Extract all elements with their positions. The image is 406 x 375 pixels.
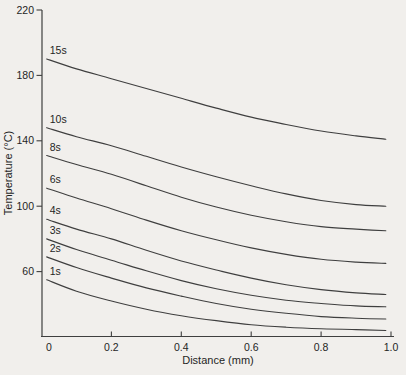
curve-3s	[47, 239, 386, 307]
curves-group	[47, 59, 386, 331]
x-tick-label-origin: 0	[46, 341, 52, 353]
curve-10s	[47, 128, 386, 207]
y-tick-label-220: 220	[16, 4, 34, 16]
x-axis-title: Distance (mm)	[182, 354, 254, 366]
curve-label-1s: 1s	[50, 265, 61, 277]
ticks-group: 601001401802200.20.40.60.81.00	[16, 4, 398, 354]
curve-2s	[47, 257, 386, 319]
y-tick-label-140: 140	[16, 134, 34, 146]
curve-label-8s: 8s	[50, 141, 61, 153]
curve-label-15s: 15s	[50, 44, 67, 56]
x-tick-label-0.4: 0.4	[174, 341, 189, 353]
curve-4s	[47, 219, 386, 294]
curve-1s	[47, 280, 386, 331]
curve-8s	[47, 156, 386, 231]
y-tick-label-100: 100	[16, 200, 34, 212]
curve-label-3s: 3s	[50, 224, 61, 236]
x-tick-label-1.0: 1.0	[384, 341, 399, 353]
curve-label-2s: 2s	[50, 242, 61, 254]
y-tick-label-60: 60	[22, 265, 34, 277]
temperature-distance-chart: 601001401802200.20.40.60.81.00 15s10s8s6…	[0, 0, 406, 375]
curve-label-4s: 4s	[50, 204, 61, 216]
x-tick-label-0.6: 0.6	[244, 341, 259, 353]
curve-6s	[47, 188, 386, 263]
y-axis-title: Temperature (°C)	[2, 131, 14, 215]
y-tick-label-180: 180	[16, 69, 34, 81]
x-tick-label-0.8: 0.8	[314, 341, 329, 353]
axes-group	[41, 10, 394, 337]
curve-label-10s: 10s	[50, 113, 67, 125]
x-tick-label-0.2: 0.2	[104, 341, 119, 353]
curve-15s	[47, 59, 386, 139]
chart-canvas: 601001401802200.20.40.60.81.00 15s10s8s6…	[0, 0, 406, 375]
curve-label-6s: 6s	[50, 173, 61, 185]
